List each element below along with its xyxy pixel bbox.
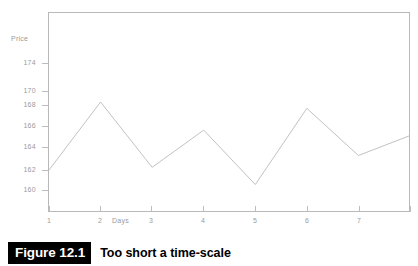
figure-caption-number: Figure 12.1	[8, 242, 91, 265]
plot-frame	[48, 12, 410, 212]
x-axis-title: Days	[112, 217, 129, 224]
x-tick-mark	[151, 206, 152, 212]
y-tick-label: 174	[10, 59, 36, 66]
x-tick-label: 3	[144, 217, 158, 224]
figure-chart: Price Days 174 170 168 166 164 162 160 1…	[0, 0, 418, 236]
y-tick-label: 164	[10, 143, 36, 150]
y-tick-label: 166	[10, 122, 36, 129]
y-tick-label: 162	[10, 166, 36, 173]
x-tick-label: 1	[42, 217, 56, 224]
x-tick-mark	[100, 206, 101, 212]
figure-caption: Figure 12.1 Too short a time-scale	[0, 240, 418, 266]
x-tick-label: 7	[352, 217, 366, 224]
y-tick-mark	[42, 170, 48, 171]
y-axis-title: Price	[11, 35, 28, 42]
y-tick-label: 160	[10, 186, 36, 193]
x-tick-label: 6	[300, 217, 314, 224]
y-tick-mark	[42, 126, 48, 127]
x-tick-mark	[255, 206, 256, 212]
y-tick-mark	[42, 147, 48, 148]
x-tick-mark	[359, 206, 360, 212]
figure-caption-text: Too short a time-scale	[100, 246, 231, 260]
x-tick-mark	[49, 206, 50, 212]
y-tick-mark	[42, 91, 48, 92]
y-tick-label: 168	[10, 101, 36, 108]
y-tick-mark	[42, 190, 48, 191]
y-tick-mark	[42, 63, 48, 64]
y-tick-label: 170	[10, 87, 36, 94]
y-tick-mark	[42, 105, 48, 106]
x-tick-label: 4	[196, 217, 210, 224]
x-tick-mark	[203, 206, 204, 212]
x-tick-label: 2	[93, 217, 107, 224]
x-tick-mark	[307, 206, 308, 212]
x-tick-mark	[410, 206, 411, 212]
x-tick-label: 5	[248, 217, 262, 224]
